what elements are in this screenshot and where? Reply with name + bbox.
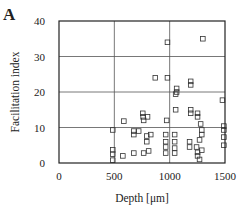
data-point-square [141,151,146,156]
data-point-square [199,132,204,137]
data-point-square [132,151,137,156]
data-point-square [163,132,168,137]
data-point-square [163,145,168,150]
y-tick-label: 30 [34,51,46,63]
gridlines [59,21,225,163]
data-point-square [172,151,177,156]
data-point-square [187,139,192,144]
data-point-square [153,76,158,81]
data-point-square [136,129,141,134]
x-tick-label: 0 [56,170,62,182]
data-point-square [121,154,126,159]
data-point-square [144,139,149,144]
data-point-square [165,40,170,45]
data-point-square [199,128,204,133]
data-points [110,36,226,162]
x-tick-label: 1500 [214,170,237,182]
y-tick-label: 40 [34,15,46,27]
data-point-square [163,151,168,156]
x-tick-label: 500 [106,170,123,182]
y-tick-label: 0 [40,157,46,169]
tick-labels: 010203040050010001500 [34,15,237,182]
data-point-square [172,132,177,137]
data-point-square [197,138,202,143]
data-point-square [173,107,178,112]
data-point-square [122,119,127,124]
data-point-square [163,139,168,144]
data-point-square [220,98,225,103]
y-tick-label: 20 [34,86,46,98]
data-point-square [172,139,177,144]
data-point-square [164,118,169,123]
data-point-square [198,122,203,127]
data-point-square [187,145,192,150]
data-point-square [172,146,177,151]
data-point-square [165,76,170,81]
y-tick-label: 10 [34,122,46,134]
data-point-square [201,36,206,41]
data-point-square [146,149,151,154]
scatter-plot: 010203040050010001500 [0,0,244,220]
data-point-square [194,145,199,150]
x-tick-label: 1000 [159,170,182,182]
